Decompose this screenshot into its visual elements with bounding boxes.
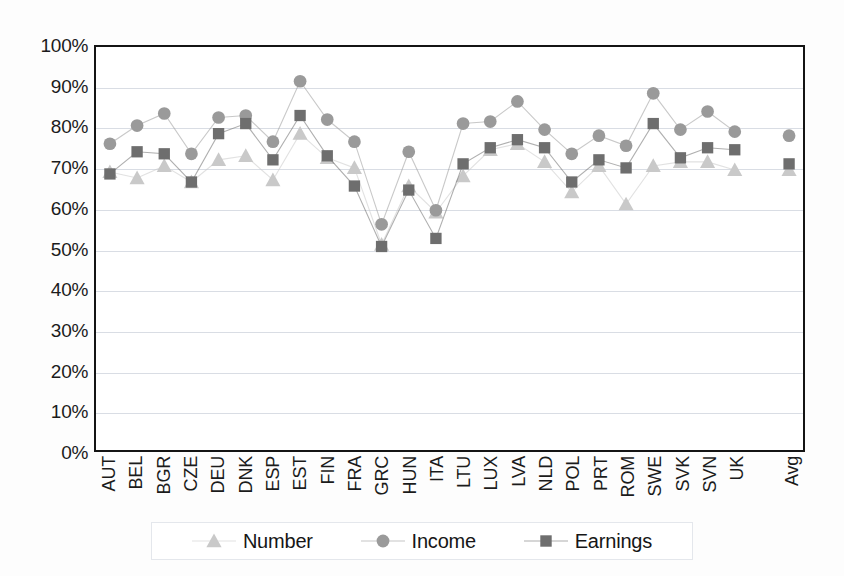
data-point bbox=[620, 139, 633, 152]
data-point bbox=[131, 146, 142, 157]
x-axis-tick-dnk: DNK bbox=[236, 456, 254, 493]
data-point bbox=[294, 110, 305, 121]
x-axis-tick-prt: PRT bbox=[591, 456, 609, 491]
legend-marker-triangle-icon bbox=[192, 533, 236, 549]
x-axis-tick-labels: AUTBELBGRCZEDEUDNKESPESTFINFRAGRCHUNITAL… bbox=[94, 456, 805, 520]
data-point bbox=[186, 176, 197, 187]
x-axis-tick-svk: SVK bbox=[673, 456, 691, 491]
data-point bbox=[729, 144, 740, 155]
data-point bbox=[702, 142, 713, 153]
x-axis-tick-ltu: LTU bbox=[454, 456, 472, 488]
data-point bbox=[159, 148, 170, 159]
x-axis-tick-swe: SWE bbox=[645, 456, 663, 496]
data-point bbox=[430, 233, 441, 244]
y-axis-tick: 20% bbox=[26, 361, 88, 380]
chart-legend: NumberIncomeEarnings bbox=[151, 522, 693, 560]
data-point bbox=[701, 105, 714, 118]
data-point bbox=[348, 135, 361, 148]
x-axis-tick-esp: ESP bbox=[263, 456, 281, 491]
data-point bbox=[538, 123, 551, 136]
data-point bbox=[511, 95, 524, 108]
data-point bbox=[593, 129, 606, 142]
y-axis-tick: 70% bbox=[26, 158, 88, 177]
data-point bbox=[565, 147, 578, 160]
x-axis-tick-uk: UK bbox=[727, 456, 745, 481]
y-axis-tick: 10% bbox=[26, 402, 88, 421]
legend-entry-earnings[interactable]: Earnings bbox=[524, 530, 652, 553]
data-point bbox=[727, 162, 742, 176]
x-axis-tick-rom: ROM bbox=[618, 456, 636, 497]
x-axis-tick-nld: NLD bbox=[536, 456, 554, 491]
data-point bbox=[267, 135, 280, 148]
data-point bbox=[783, 129, 796, 142]
data-point bbox=[457, 158, 468, 169]
data-point bbox=[593, 154, 604, 165]
data-point bbox=[375, 218, 388, 231]
plot-area bbox=[94, 45, 805, 452]
data-point bbox=[539, 142, 550, 153]
data-point bbox=[700, 154, 715, 168]
x-axis-tick-lva: LVA bbox=[509, 456, 527, 487]
data-point bbox=[212, 111, 225, 124]
legend-label: Earnings bbox=[575, 530, 652, 553]
data-point bbox=[620, 162, 631, 173]
y-axis-tick: 90% bbox=[26, 76, 88, 95]
data-point bbox=[265, 172, 280, 186]
x-axis-tick-aut: AUT bbox=[99, 456, 117, 491]
data-point bbox=[783, 158, 794, 169]
x-axis-tick-est: EST bbox=[290, 456, 308, 490]
data-point bbox=[648, 118, 659, 129]
data-point bbox=[402, 145, 415, 158]
data-point bbox=[728, 125, 741, 138]
chart-figure: 100%90%80%70%60%50%40%30%20%10%0% AUTBEL… bbox=[0, 0, 844, 576]
data-point bbox=[213, 128, 224, 139]
data-point bbox=[349, 180, 360, 191]
y-axis-tick-labels: 100%90%80%70%60%50%40%30%20%10%0% bbox=[22, 0, 88, 576]
y-axis-tick: 50% bbox=[26, 239, 88, 258]
x-axis-tick-ita: ITA bbox=[427, 456, 445, 482]
x-axis-tick-bel: BEL bbox=[126, 456, 144, 489]
x-axis-tick-deu: DEU bbox=[208, 456, 226, 493]
x-axis-tick-bgr: BGR bbox=[154, 456, 172, 494]
data-point bbox=[512, 134, 523, 145]
y-axis-tick: 60% bbox=[26, 198, 88, 217]
data-point bbox=[321, 113, 334, 126]
legend-label: Income bbox=[412, 530, 476, 553]
data-point bbox=[430, 204, 443, 217]
data-point bbox=[457, 117, 470, 130]
data-point bbox=[157, 158, 172, 172]
data-point bbox=[347, 160, 362, 174]
data-point bbox=[267, 154, 278, 165]
x-axis-tick-grc: GRC bbox=[372, 456, 390, 495]
legend-marker-square-icon bbox=[524, 533, 568, 549]
data-point bbox=[674, 123, 687, 136]
x-axis-tick-lux: LUX bbox=[481, 456, 499, 490]
y-axis-tick: 0% bbox=[26, 443, 88, 462]
series-layer bbox=[96, 47, 803, 450]
x-axis-tick-cze: CZE bbox=[181, 456, 199, 491]
series-line bbox=[110, 134, 735, 245]
x-axis-tick-pol: POL bbox=[563, 456, 581, 491]
y-axis-tick: 80% bbox=[26, 117, 88, 136]
data-point bbox=[376, 241, 387, 252]
data-point bbox=[185, 147, 198, 160]
data-point bbox=[675, 152, 686, 163]
x-axis-tick-avg: Avg bbox=[782, 456, 800, 486]
y-axis-tick: 30% bbox=[26, 320, 88, 339]
legend-marker-circle-icon bbox=[361, 533, 405, 549]
legend-entry-income[interactable]: Income bbox=[361, 530, 476, 553]
legend-entry-number[interactable]: Number bbox=[192, 530, 313, 553]
data-point bbox=[566, 176, 577, 187]
x-axis-tick-fin: FIN bbox=[318, 456, 336, 484]
x-axis-tick-hun: HUN bbox=[400, 456, 418, 494]
x-axis-tick-svn: SVN bbox=[700, 456, 718, 492]
data-point bbox=[158, 107, 171, 120]
data-point bbox=[537, 154, 552, 168]
data-point bbox=[240, 118, 251, 129]
series-line bbox=[110, 81, 735, 224]
y-axis-tick: 40% bbox=[26, 280, 88, 299]
x-axis-tick-fra: FRA bbox=[345, 456, 363, 491]
legend-label: Number bbox=[243, 530, 313, 553]
data-point bbox=[619, 197, 634, 211]
data-point bbox=[322, 150, 333, 161]
